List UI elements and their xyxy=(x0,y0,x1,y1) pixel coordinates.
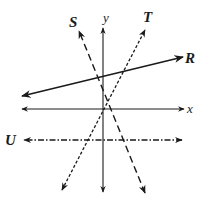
line-u-label: U xyxy=(5,132,17,148)
line-t-label: T xyxy=(143,9,153,25)
x-axis-label: x xyxy=(186,101,193,116)
line-s-label: S xyxy=(69,14,77,30)
line-r-label: R xyxy=(184,50,195,66)
coordinate-diagram: y x R S T U xyxy=(0,0,200,202)
y-axis-label: y xyxy=(101,10,109,25)
line-s xyxy=(79,31,145,193)
